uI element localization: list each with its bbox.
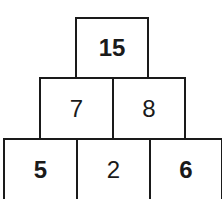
cell-value: 8: [142, 95, 155, 123]
cell-value: 6: [179, 156, 192, 184]
cell-value: 2: [107, 156, 120, 184]
pyramid-cell-middle-right: 8: [112, 77, 186, 140]
pyramid-cell-bottom-middle: 2: [76, 138, 151, 199]
cell-value: 5: [34, 156, 47, 184]
pyramid-cell-bottom-right: 6: [149, 138, 222, 199]
pyramid-cell-middle-left: 7: [39, 77, 114, 140]
cell-value: 15: [99, 34, 126, 62]
pyramid-cell-bottom-left: 5: [3, 138, 78, 199]
pyramid-cell-top: 15: [75, 17, 149, 79]
cell-value: 7: [70, 95, 83, 123]
